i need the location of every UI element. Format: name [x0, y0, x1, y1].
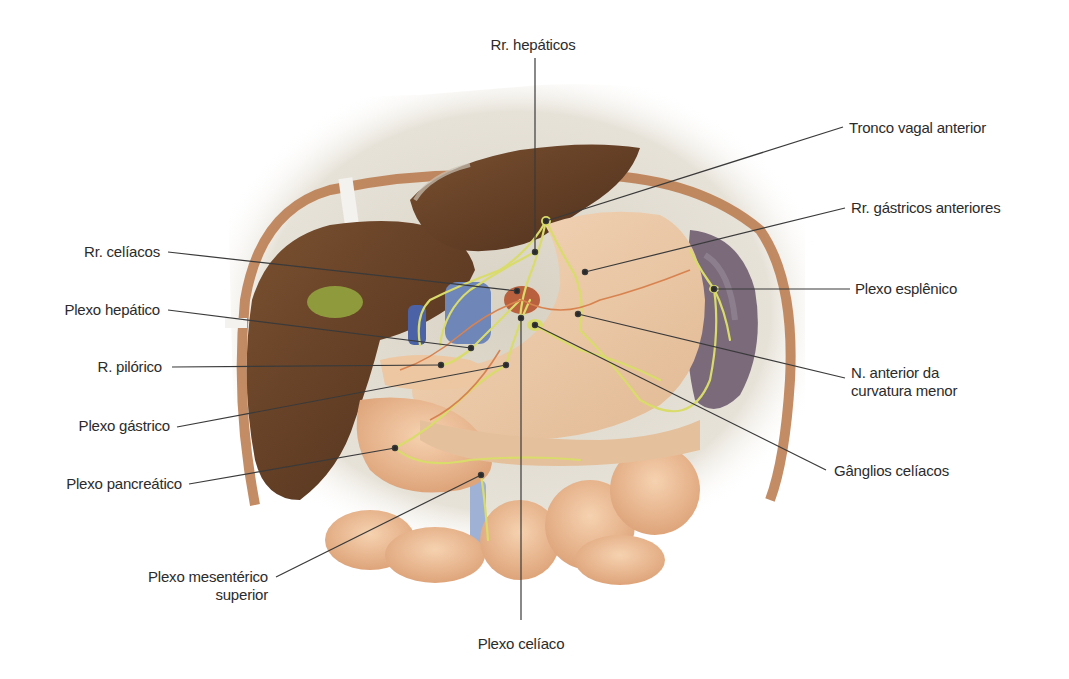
label-plexo-gastrico: Plexo gástrico — [79, 416, 170, 435]
label-rr-celiacos: Rr. celíacos — [84, 242, 160, 261]
label-r-pilorico: R. pilórico — [98, 357, 163, 376]
label-plexo-hepatico: Plexo hepático — [64, 300, 160, 319]
label-plexo-esplenico: Plexo esplênico — [855, 279, 957, 298]
label-tronco-vagal-anterior: Tronco vagal anterior — [849, 118, 986, 137]
gallbladder — [307, 286, 363, 318]
label-plexo-pancreatico: Plexo pancreático — [66, 474, 182, 493]
label-plexo-mesenterico-superior-line2: superior — [215, 585, 268, 604]
label-n-anterior-curvatura-menor-line1: N. anterior da — [851, 363, 939, 382]
label-plexo-celiaco: Plexo celíaco — [478, 634, 565, 653]
label-rr-hepaticos: Rr. hepáticos — [491, 35, 576, 54]
label-plexo-mesenterico-superior-line1: Plexo mesentérico — [148, 567, 268, 586]
label-n-anterior-curvatura-menor-line2: curvatura menor — [851, 381, 957, 400]
label-ganglios-celiacos: Gânglios celíacos — [834, 461, 949, 480]
label-rr-gastricos-anteriores: Rr. gástricos anteriores — [851, 198, 1000, 217]
